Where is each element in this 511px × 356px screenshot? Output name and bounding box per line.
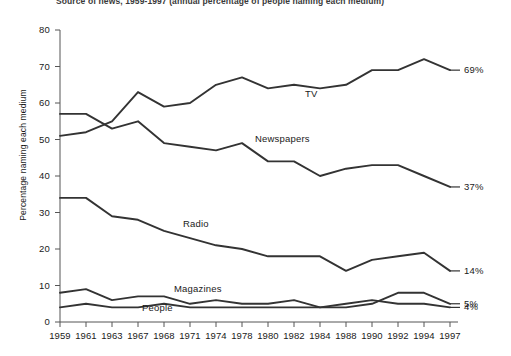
y-tick-60: 60 (24, 97, 50, 108)
y-tick-30: 30 (24, 207, 50, 218)
end-label-tv: 69% (464, 64, 484, 75)
y-tick-20: 20 (24, 243, 50, 254)
chart-container: Source of news, 1959-1997 (annual percen… (0, 0, 511, 356)
x-tick-1997: 1997 (434, 330, 466, 341)
end-label-people: 4% (464, 301, 478, 312)
series-label-magazines: Magazines (174, 283, 222, 294)
y-tick-10: 10 (24, 280, 50, 291)
series-line-magazines (60, 289, 450, 307)
series-label-people: People (142, 302, 173, 313)
y-tick-80: 80 (24, 24, 50, 35)
series-line-radio (60, 198, 450, 271)
series-label-radio: Radio (183, 218, 209, 229)
end-label-radio: 14% (464, 265, 484, 276)
y-tick-0: 0 (24, 316, 50, 327)
series-line-tv (60, 59, 450, 136)
chart-plot-area (0, 0, 511, 356)
y-tick-70: 70 (24, 61, 50, 72)
series-label-newspapers: Newspapers (255, 133, 310, 144)
series-line-newspapers (60, 114, 450, 187)
end-label-newspapers: 37% (464, 181, 484, 192)
y-tick-40: 40 (24, 170, 50, 181)
series-label-tv: TV (305, 88, 318, 99)
y-tick-50: 50 (24, 134, 50, 145)
